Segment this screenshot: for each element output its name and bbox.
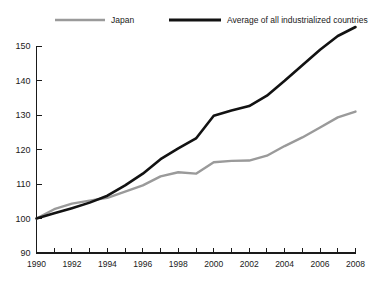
x-axis-ticks: 1990199219941996199820002002200420062008	[27, 248, 365, 269]
y-tick-label: 150	[15, 41, 30, 51]
series-line-industrialized-average	[37, 27, 356, 218]
x-tick-label: 2002	[240, 259, 259, 269]
chart-series	[37, 27, 356, 218]
x-tick-label: 1996	[133, 259, 152, 269]
x-tick-label: 1990	[27, 259, 46, 269]
chart-axes	[37, 46, 356, 253]
y-tick-label: 100	[15, 214, 30, 224]
x-tick-label: 2008	[346, 259, 365, 269]
legend-label-japan: Japan	[111, 15, 134, 25]
y-axis-ticks: 90100110120130140150	[15, 41, 41, 258]
y-tick-label: 120	[15, 145, 30, 155]
series-line-japan	[37, 112, 356, 219]
chart-legend: JapanAverage of all industrialized count…	[55, 15, 368, 25]
x-tick-label: 2000	[204, 259, 223, 269]
line-chart: JapanAverage of all industrialized count…	[0, 0, 390, 293]
axis-spine	[37, 46, 356, 253]
x-tick-label: 2004	[275, 259, 294, 269]
y-tick-label: 140	[15, 76, 30, 86]
x-tick-label: 1992	[62, 259, 81, 269]
chart-container: JapanAverage of all industrialized count…	[0, 0, 390, 293]
x-tick-label: 1994	[98, 259, 117, 269]
y-tick-label: 130	[15, 110, 30, 120]
legend-label-industrialized-average: Average of all industrialized countries	[227, 15, 368, 25]
x-tick-label: 1998	[169, 259, 188, 269]
y-tick-label: 110	[16, 179, 30, 189]
x-tick-label: 2006	[311, 259, 330, 269]
y-tick-label: 90	[20, 248, 30, 258]
